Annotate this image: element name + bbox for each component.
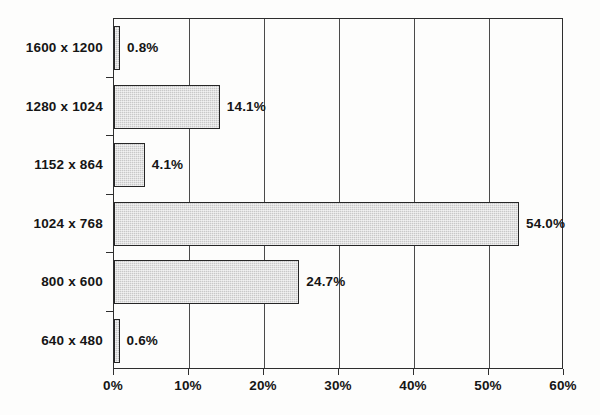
x-axis-tick-10 — [188, 369, 189, 375]
bar-1600-x-1200[interactable] — [114, 26, 120, 70]
x-axis-tick-0 — [113, 369, 114, 375]
bar-chart: 1600 x 12001280 x 10241152 x 8641024 x 7… — [0, 0, 600, 415]
bar-1152-x-864[interactable] — [114, 143, 145, 187]
bar-800-x-600[interactable] — [114, 260, 299, 304]
x-axis-label-0: 0% — [103, 378, 123, 393]
x-axis-label-60: 60% — [549, 378, 577, 393]
category-label-1152-x-864: 1152 x 864 — [0, 157, 103, 172]
bar-1024-x-768[interactable] — [114, 202, 519, 246]
y-axis-tick — [106, 252, 114, 253]
bar-band — [114, 26, 562, 70]
y-axis-tick — [106, 194, 114, 195]
x-axis-tick-40 — [413, 369, 414, 375]
x-axis-label-30: 30% — [324, 378, 352, 393]
x-axis-tick-50 — [488, 369, 489, 375]
gridline-30 — [339, 19, 340, 368]
bar-640-x-480[interactable] — [114, 319, 120, 363]
x-axis-tick-60 — [563, 369, 564, 375]
bar-value-label: 0.8% — [127, 40, 159, 55]
bar-value-label: 0.6% — [127, 332, 159, 347]
y-axis-tick — [106, 135, 114, 136]
category-label-1024-x-768: 1024 x 768 — [0, 215, 103, 230]
x-axis-label-40: 40% — [399, 378, 427, 393]
y-axis-tick — [106, 77, 114, 78]
bar-value-label: 54.0% — [526, 215, 565, 230]
gridline-50 — [489, 19, 490, 368]
category-label-800-x-600: 800 x 600 — [0, 274, 103, 289]
x-axis-tick-30 — [338, 369, 339, 375]
gridline-20 — [264, 19, 265, 368]
gridline-40 — [414, 19, 415, 368]
x-axis-label-10: 10% — [174, 378, 202, 393]
x-axis-label-20: 20% — [249, 378, 277, 393]
bar-value-label: 14.1% — [227, 98, 266, 113]
bar-band — [114, 85, 562, 129]
x-axis-tick-20 — [263, 369, 264, 375]
bar-band — [114, 319, 562, 363]
bar-value-label: 4.1% — [152, 157, 184, 172]
bar-1280-x-1024[interactable] — [114, 85, 220, 129]
gridline-10 — [189, 19, 190, 368]
category-label-1600-x-1200: 1600 x 1200 — [0, 40, 103, 55]
category-label-640-x-480: 640 x 480 — [0, 332, 103, 347]
plot-area — [113, 18, 563, 369]
bar-band — [114, 202, 562, 246]
category-label-1280-x-1024: 1280 x 1024 — [0, 98, 103, 113]
bar-value-label: 24.7% — [306, 274, 345, 289]
x-axis-label-50: 50% — [474, 378, 502, 393]
y-axis-tick — [106, 311, 114, 312]
